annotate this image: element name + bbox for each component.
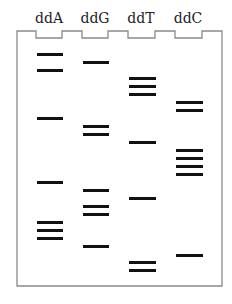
band-ddG-1 [83,125,109,128]
band-ddG-4 [83,205,109,208]
band-ddC-2 [176,149,203,152]
band-ddA-1 [37,69,63,72]
band-ddA-6 [37,237,63,240]
band-ddC-3 [176,157,203,160]
band-ddC-1 [176,109,203,112]
band-ddA-0 [37,53,63,56]
band-ddG-5 [83,213,109,216]
band-ddT-2 [129,93,156,96]
band-ddA-4 [37,221,63,224]
band-ddG-2 [83,133,109,136]
band-ddA-3 [37,181,63,184]
band-ddC-6 [176,254,203,257]
band-ddT-4 [129,197,156,200]
band-ddG-6 [83,245,109,248]
band-ddC-4 [176,165,203,168]
band-ddA-5 [37,229,63,232]
band-ddC-5 [176,173,203,176]
band-ddG-3 [83,189,109,192]
gel-outline [0,0,232,304]
band-ddA-2 [37,117,63,120]
band-ddT-5 [129,261,156,264]
band-ddT-6 [129,269,156,272]
band-ddT-0 [129,77,156,80]
band-ddT-3 [129,141,156,144]
band-ddG-0 [83,61,109,64]
band-ddC-0 [176,101,203,104]
band-ddT-1 [129,85,156,88]
